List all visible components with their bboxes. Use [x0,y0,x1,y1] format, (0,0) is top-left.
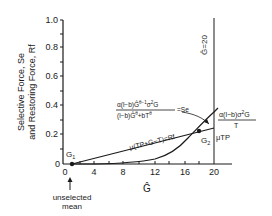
y-tick-label: 0.4 [45,100,58,110]
g2-point [197,129,201,133]
x-axis-label: Ĝ [143,182,151,194]
svg-text:Selective Force, Se: Selective Force, Se [16,53,26,131]
chart: 1.0 0.8 0.6 0.4 0.2 0 Selective Force, S… [0,0,272,216]
unselected-mean-label: unselected mean [53,193,92,211]
g1-label: G1 [66,150,75,160]
x-tick-label: 20 [209,167,219,177]
g2-label: G2 [201,136,210,146]
svg-text:(l−b)Ĝθ+bTθ: (l−b)Ĝθ+bTθ [117,111,152,120]
arrow-head-icon [204,119,209,124]
g1-point [70,162,74,166]
y-tick-label: 0.2 [45,129,58,139]
y-tick-label: 0.6 [45,71,58,81]
x-tick-label: 0 [62,167,67,177]
arrow-up-icon [68,177,73,182]
svg-text:and Restoring Force, Rf: and Restoring Force, Rf [27,44,37,140]
asymptote-formula: α(l−b)σ2G T [218,109,256,129]
svg-text:mean: mean [62,202,82,211]
y-axis-label: Selective Force, Se and Restoring Force,… [16,44,37,140]
y-tick-label: 0 [55,159,60,169]
x-tick-label: 16 [180,167,190,177]
mutp-label: μTP [216,133,230,142]
x-tick-label: 12 [150,167,160,177]
svg-text:T: T [234,122,239,129]
svg-text:unselected: unselected [53,193,92,202]
se-formula: α(l−b)Ĝθ−1σ2G (l−b)Ĝθ+bTθ =Se [116,100,189,120]
svg-text:α(l−b)Ĝθ−1σ2G: α(l−b)Ĝθ−1σ2G [117,100,158,109]
vertical-line-label: Ĝ=20 [200,35,209,55]
y-tick-label: 1.0 [45,15,58,25]
rf-formula: μ(TP+G−T)=Rf [129,133,176,152]
svg-text:α(l−b)σ2G: α(l−b)σ2G [219,109,250,119]
x-tick-labels: 0 4 8 12 16 20 [62,167,219,177]
y-tick-label: 0.8 [45,42,58,52]
x-tick-label: 8 [120,167,125,177]
y-tick-labels: 1.0 0.8 0.6 0.4 0.2 0 [45,15,60,169]
x-tick-label: 4 [91,167,96,177]
